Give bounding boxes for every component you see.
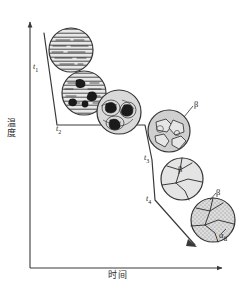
microstructure-secondary-alpha [191, 193, 235, 242]
critical-point-t2: t2 [56, 124, 61, 135]
t3-subscript: 3 [146, 158, 149, 164]
phase-label-beta-eutectic: β [194, 99, 198, 109]
microstructure-eutectic [148, 106, 193, 152]
diagram-canvas [0, 0, 248, 293]
phase-label-alpha-two: αⅡ [219, 230, 228, 242]
t4-subscript: 4 [148, 199, 151, 205]
critical-point-t3: t3 [144, 153, 149, 164]
t1-subscript: 1 [35, 67, 38, 73]
microstructure-growing-crystals [97, 90, 141, 134]
alpha-subscript: Ⅱ [223, 236, 227, 242]
t2-subscript: 2 [58, 129, 61, 135]
critical-point-t1: t1 [33, 62, 38, 73]
phase-label-beta-grain: β [178, 164, 182, 174]
phase-label-beta-secondary: β [216, 187, 220, 197]
cooling-curve-figure: 温度 时间 t1 t2 t3 t4 β β β αⅡ [0, 0, 248, 293]
critical-point-t4: t4 [146, 194, 151, 205]
x-axis-label: 时间 [108, 268, 127, 281]
y-axis-label: 温度 [6, 118, 15, 137]
microstructure-liquid [49, 28, 93, 72]
